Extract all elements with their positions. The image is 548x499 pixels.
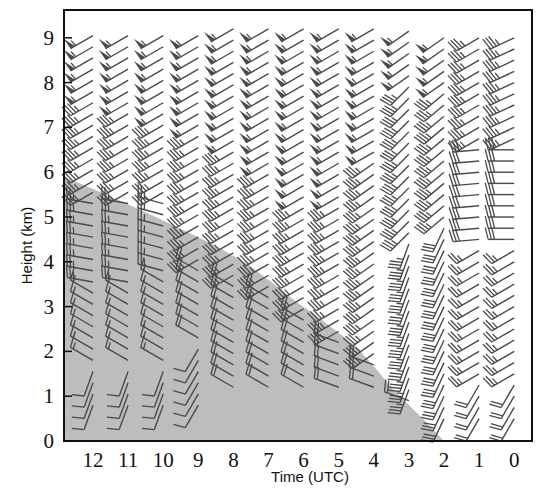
y-tick-label: 7 xyxy=(44,115,55,139)
y-tick-label: 5 xyxy=(44,205,55,229)
y-tick-label: 1 xyxy=(44,384,55,408)
x-tick-label: 8 xyxy=(228,448,239,472)
wind-barb-chart: 0123456789 1211109876543210 Time (UTC) H… xyxy=(0,0,548,499)
y-tick-label: 6 xyxy=(44,160,55,184)
x-tick-label: 0 xyxy=(509,448,520,472)
y-tick-label: 4 xyxy=(44,250,55,274)
x-tick-label: 12 xyxy=(83,448,104,472)
y-tick-label: 9 xyxy=(44,26,55,50)
y-tick-label: 0 xyxy=(44,429,55,453)
x-tick-label: 3 xyxy=(404,448,415,472)
x-tick-label: 10 xyxy=(153,448,174,472)
x-axis-title: Time (UTC) xyxy=(271,468,349,485)
x-tick-label: 4 xyxy=(369,448,380,472)
y-tick-label: 2 xyxy=(44,339,55,363)
x-tick-label: 1 xyxy=(474,448,485,472)
y-tick-label: 8 xyxy=(44,71,55,95)
y-tick-label: 3 xyxy=(44,295,55,319)
y-axis-title: Height (km) xyxy=(18,207,35,285)
x-tick-label: 2 xyxy=(439,448,450,472)
x-tick-label: 9 xyxy=(193,448,204,472)
x-tick-label: 11 xyxy=(118,448,138,472)
